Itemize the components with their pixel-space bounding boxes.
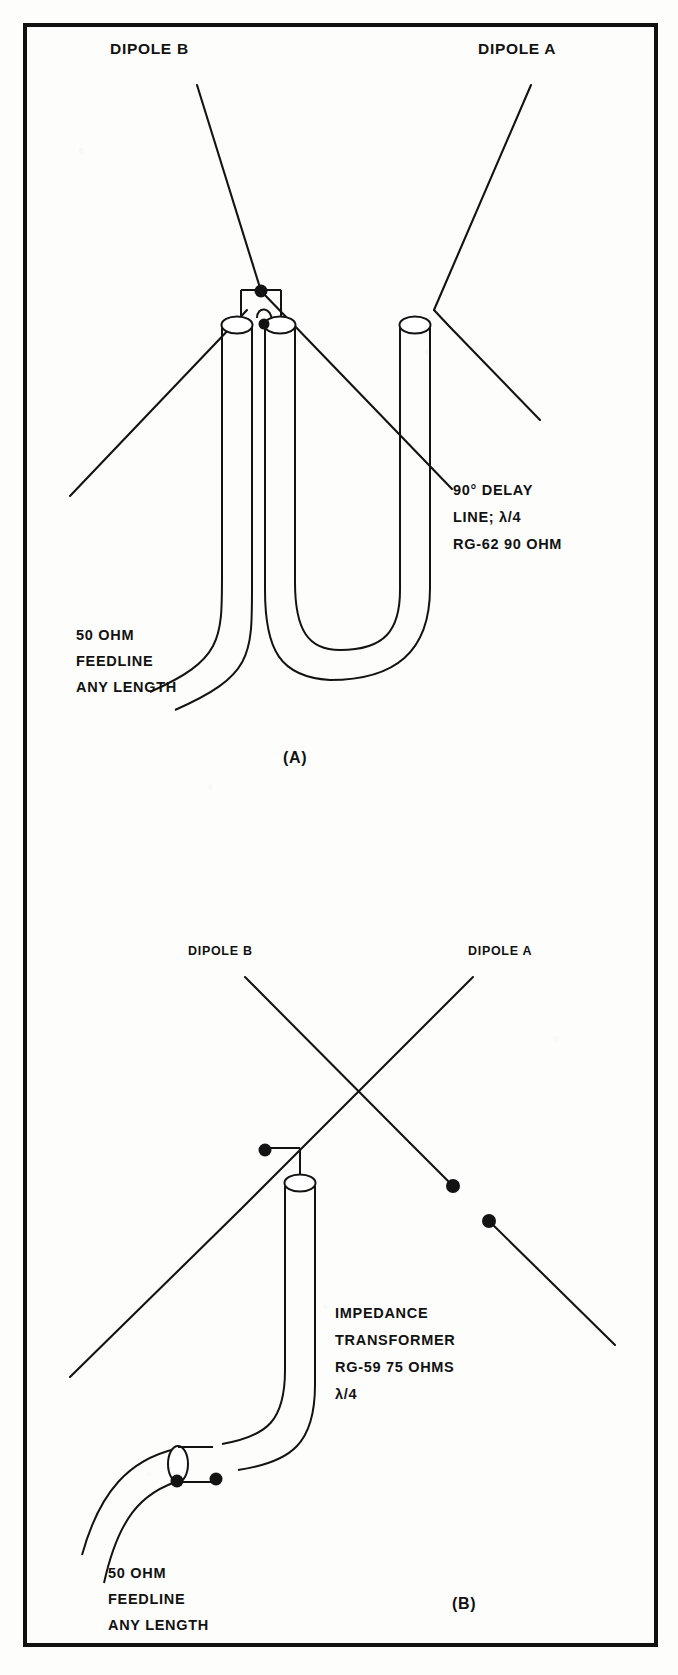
panel-a-feedline-label-line3: ANY LENGTH bbox=[76, 679, 177, 695]
panel-b-feedline-label-line3: ANY LENGTH bbox=[108, 1617, 209, 1633]
panel-a-feedline-label-line2: FEEDLINE bbox=[76, 653, 153, 669]
panel-b-dipole-b-label: DIPOLE B bbox=[188, 944, 253, 958]
delay-line-label-line2: LINE; λ/4 bbox=[453, 509, 521, 525]
panel-b-dipole-a-upper bbox=[240, 977, 473, 1210]
delay-line-inner-wall bbox=[340, 327, 400, 650]
transformer-coax-end-ellipse bbox=[285, 1175, 316, 1192]
antenna-feed-diagram: DIPOLE B DIPOLE A 90° DELAY LINE; λ/4 RG… bbox=[0, 0, 678, 1675]
panel-b-feedline-label-line2: FEEDLINE bbox=[108, 1591, 185, 1607]
panel-a-dipole-b-label: DIPOLE B bbox=[110, 40, 189, 57]
transformer-label-line3: RG-59 75 OHMS bbox=[335, 1359, 455, 1375]
transformer-label-line4: λ/4 bbox=[335, 1386, 357, 1402]
connector-dot-right bbox=[210, 1473, 223, 1486]
panel-b-dipole-a-label: DIPOLE A bbox=[468, 944, 532, 958]
dipole-a-wire-upper bbox=[434, 85, 531, 310]
panel-b-feedline-upper-wall bbox=[82, 1449, 175, 1555]
feedpoint-dot-center bbox=[259, 319, 270, 330]
panel-b-caption: (B) bbox=[452, 1595, 476, 1612]
connector-dot-left bbox=[171, 1475, 184, 1488]
panel-b-dipole-a-gap-dot-right bbox=[482, 1214, 496, 1228]
transformer-coax-right-wall bbox=[238, 1186, 315, 1470]
coax-a1-end-ellipse bbox=[222, 317, 253, 334]
coax-a1-right-wall bbox=[175, 327, 252, 710]
dipole-a-wire-right-lower bbox=[448, 325, 540, 420]
panel-b-dipole-a-lower-left bbox=[70, 1210, 240, 1377]
coax-a2-left-wall bbox=[265, 327, 330, 680]
panel-b-dipole-a-lower-right bbox=[487, 1219, 615, 1345]
figure-border bbox=[25, 25, 656, 1645]
panel-a-caption: (A) bbox=[283, 749, 307, 766]
coax-a1-left-wall bbox=[150, 327, 222, 692]
panel-a-dipole-a-label: DIPOLE A bbox=[478, 40, 556, 57]
panel-b-dipole-a-gap-dot-left bbox=[446, 1179, 460, 1193]
delay-line-outer-wall bbox=[330, 327, 430, 680]
delay-line-label-line3: RG-62 90 OHM bbox=[453, 536, 562, 552]
panel-b-dipole-b-upper bbox=[245, 977, 410, 1143]
panel-b: DIPOLE B DIPOLE A IMPEDANCE TRANSFORMER … bbox=[70, 944, 615, 1633]
panel-b-dipole-b-to-dot bbox=[410, 1143, 448, 1181]
panel-b-feedline-label-line1: 50 OHM bbox=[108, 1565, 166, 1581]
dipole-a-wire-right-elbow bbox=[434, 310, 448, 325]
diagram-canvas: DIPOLE B DIPOLE A 90° DELAY LINE; λ/4 RG… bbox=[0, 0, 678, 1675]
transformer-label-line1: IMPEDANCE bbox=[335, 1305, 428, 1321]
delay-line-end-ellipse bbox=[400, 317, 431, 334]
feedpoint-dot-upper bbox=[255, 285, 268, 298]
panel-a-feedline-label-line1: 50 OHM bbox=[76, 627, 134, 643]
coax-a2-right-wall bbox=[295, 327, 340, 650]
transformer-coax-left-wall bbox=[222, 1186, 285, 1444]
dipole-b-wire-upper bbox=[197, 85, 261, 291]
transformer-label-line2: TRANSFORMER bbox=[335, 1332, 455, 1348]
panel-b-shield-dot bbox=[259, 1144, 272, 1157]
panel-a: DIPOLE B DIPOLE A 90° DELAY LINE; λ/4 RG… bbox=[70, 40, 562, 766]
dipole-a-wire-lower bbox=[70, 325, 233, 496]
delay-line-label-line1: 90° DELAY bbox=[453, 482, 533, 498]
